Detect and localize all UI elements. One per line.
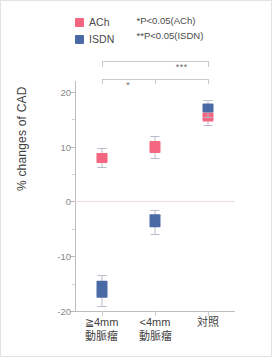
p-note-isdn: **P<0.05(ISDN) xyxy=(137,30,204,42)
error-cap-upper xyxy=(151,136,160,137)
bracket-end-tick xyxy=(208,61,209,67)
y-tick-label: 20 xyxy=(60,86,71,97)
error-cap-upper xyxy=(204,100,213,101)
legend-swatch-isdn-icon xyxy=(75,35,84,44)
y-tick-minor xyxy=(72,229,76,230)
legend-label-isdn: ISDN xyxy=(89,34,115,45)
x-axis-label-line: 対照 xyxy=(197,315,219,329)
x-axis-label-line: <4mm xyxy=(139,315,172,329)
bracket-end-tick xyxy=(208,79,209,84)
legend-item-ach: ACh xyxy=(75,15,115,29)
x-axis-label-2: 対照 xyxy=(197,315,219,329)
y-axis-line xyxy=(75,81,76,311)
y-tick-label: -10 xyxy=(57,251,71,262)
x-axis-label-line: ≧4mm xyxy=(85,315,118,329)
marker-ach xyxy=(96,153,107,163)
error-cap-lower xyxy=(204,117,213,118)
legend-item-isdn: ISDN xyxy=(75,32,115,46)
bracket-end-tick xyxy=(102,79,103,84)
marker-isdn xyxy=(150,214,161,228)
legend-swatch-ach-icon xyxy=(75,18,84,27)
bracket-line xyxy=(102,61,209,62)
marker-isdn xyxy=(203,104,214,113)
error-cap-lower xyxy=(204,125,213,126)
p-note-ach: *P<0.05(ACh) xyxy=(137,15,204,27)
marker-ach xyxy=(150,141,161,153)
x-axis-label-1: <4mm動脈瘤 xyxy=(139,315,172,343)
significance-mark: *** xyxy=(176,63,188,72)
y-tick-label: 10 xyxy=(60,141,71,152)
legend-label-ach: ACh xyxy=(89,17,110,28)
bracket-end-tick xyxy=(102,61,103,67)
bracket-line xyxy=(155,79,208,80)
marker-isdn xyxy=(96,281,107,298)
y-tick-label: -20 xyxy=(57,306,71,317)
y-tick-minor xyxy=(72,174,76,175)
zero-reference-line xyxy=(75,201,235,202)
legend-entries: ACh ISDN xyxy=(75,15,115,46)
y-tick-minor xyxy=(72,119,76,120)
x-axis-label-line: 動脈瘤 xyxy=(85,329,118,343)
error-cap-lower xyxy=(97,306,106,307)
error-cap-lower xyxy=(151,158,160,159)
legend: ACh ISDN *P<0.05(ACh) **P<0.05(ISDN) xyxy=(75,15,203,46)
error-cap-upper xyxy=(97,275,106,276)
y-axis-label: % changes of CAD xyxy=(15,86,29,191)
p-value-notes: *P<0.05(ACh) **P<0.05(ISDN) xyxy=(137,15,204,42)
y-tick-label: 0 xyxy=(66,196,71,207)
error-cap-lower xyxy=(97,167,106,168)
x-axis-label-0: ≧4mm動脈瘤 xyxy=(85,315,118,343)
bracket-end-tick xyxy=(155,79,156,84)
chart-figure: ACh ISDN *P<0.05(ACh) **P<0.05(ISDN) % c… xyxy=(0,0,272,357)
x-axis-label-line: 動脈瘤 xyxy=(139,329,172,343)
error-cap-upper xyxy=(97,148,106,149)
y-tick-minor xyxy=(72,284,76,285)
error-cap-upper xyxy=(151,210,160,211)
error-cap-lower xyxy=(151,234,160,235)
plot-area: 20100-10-20 **** xyxy=(75,81,235,311)
significance-mark: * xyxy=(126,81,130,90)
